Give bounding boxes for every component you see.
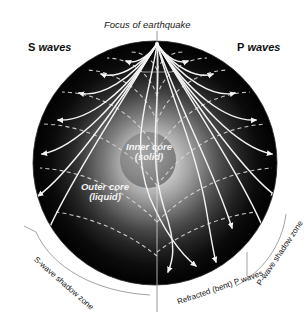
s-waves-label: S waves [28,42,71,54]
focus-of-earthquake-label: Focus of earthquake [104,20,191,30]
p-waves-word: waves [247,41,280,53]
earth-cutaway-diagram: Focus of earthquake S waves P waves Inne… [0,0,308,315]
inner-core-label-line2: (solid) [110,152,188,162]
inner-core-label: Inner core (solid) [110,142,188,162]
outer-core-label: Outer core (liquid) [62,182,148,202]
s-waves-word: waves [38,41,71,53]
p-waves-letter: P [237,41,244,53]
outer-core-label-line2: (liquid) [62,192,148,202]
s-waves-letter: S [28,41,35,53]
p-waves-label: P waves [237,42,280,54]
s-shadow-zone-tick-start [24,226,36,232]
focus-point [155,42,159,46]
